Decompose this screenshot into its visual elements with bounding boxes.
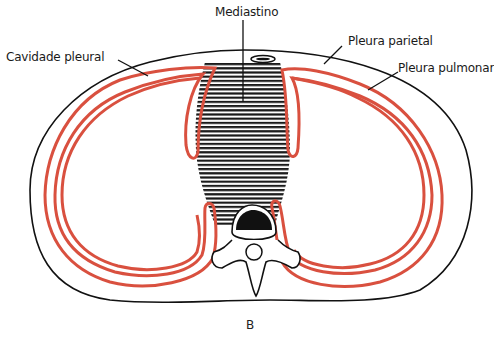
left-pleura-pulmonar bbox=[62, 78, 200, 270]
label-pleura-parietal: Pleura parietal bbox=[348, 34, 433, 48]
left-pleura-parietal bbox=[45, 68, 216, 286]
figure-caption: B bbox=[246, 318, 254, 332]
label-pleura-pulmonar: Pleura pulmonar bbox=[398, 61, 494, 75]
right-pleura-pulmonar bbox=[292, 78, 424, 268]
label-cavidade-pleural: Cavidade pleural bbox=[6, 50, 104, 64]
spinal-canal bbox=[246, 244, 262, 260]
label-mediastino: Mediastino bbox=[215, 5, 278, 19]
